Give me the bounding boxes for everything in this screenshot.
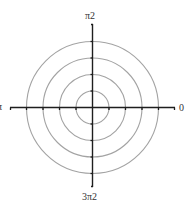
polar-grid <box>0 0 188 203</box>
angle-label-zero: 0 <box>179 103 184 113</box>
angle-label-pi-over-2: π2 <box>85 11 95 21</box>
angle-label-pi: π <box>0 102 2 112</box>
angle-label-3pi-over-2: 3π2 <box>82 192 97 202</box>
